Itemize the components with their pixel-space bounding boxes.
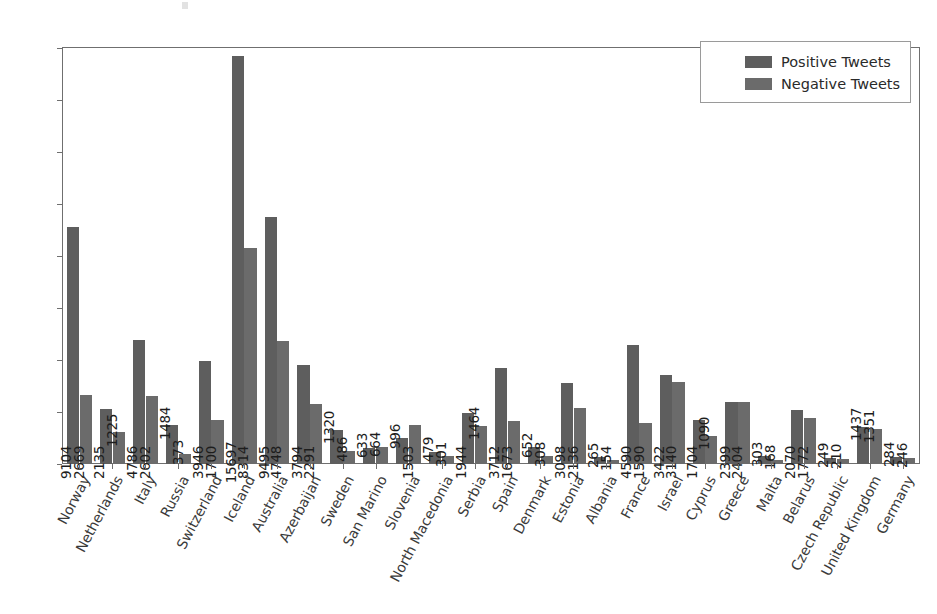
bar-negative: 8314	[244, 248, 256, 464]
bar-group: 91042669	[67, 48, 92, 464]
legend-swatch-positive	[745, 56, 772, 68]
bar-group: 39461700	[199, 48, 224, 464]
bar-group: 94954748	[265, 48, 290, 464]
x-axis-tick-mark	[738, 464, 739, 469]
scan-artifact	[182, 2, 188, 9]
bar-value-label: 1225	[105, 414, 119, 447]
bar-group: 21351225	[100, 48, 125, 464]
bar-group: 37121673	[495, 48, 520, 464]
bar-group: 45901590	[627, 48, 652, 464]
bar-value-label: 664	[369, 432, 383, 457]
legend: Positive Tweets Negative Tweets	[700, 41, 911, 103]
legend-swatch-negative	[745, 78, 772, 90]
x-axis-tick-mark	[870, 464, 871, 469]
x-axis-tick-mark	[244, 464, 245, 469]
x-axis-tick-mark	[79, 464, 80, 469]
x-axis-tick-mark	[639, 464, 640, 469]
bar-positive: 9104	[67, 227, 79, 464]
x-axis-tick-mark	[672, 464, 673, 469]
x-axis-tick-mark	[705, 464, 706, 469]
bar-group: 633664	[363, 48, 388, 464]
x-axis-tick-mark	[277, 464, 278, 469]
x-axis-tick-mark	[837, 464, 838, 469]
bar-group: 34223140	[660, 48, 685, 464]
x-axis-tick-mark	[442, 464, 443, 469]
bar-value-label: 1351	[863, 410, 877, 443]
x-axis: NorwayNetherlandsItalyRussiaSwitzerlandI…	[63, 464, 919, 614]
bar-positive: 9495	[265, 217, 277, 464]
bar-negative: 664	[376, 447, 388, 464]
x-axis-tick-mark	[475, 464, 476, 469]
bar-group: 20701772	[791, 48, 816, 464]
x-axis-tick-mark	[112, 464, 113, 469]
x-axis-tick-mark	[804, 464, 805, 469]
bar-group: 479301	[429, 48, 454, 464]
bar-group: 14371351	[857, 48, 882, 464]
bar-group: 9961503	[396, 48, 421, 464]
legend-label-negative: Negative Tweets	[781, 76, 900, 92]
x-axis-tick-mark	[409, 464, 410, 469]
bar-value-label: 1090	[698, 417, 712, 450]
bar-value-label: 486	[336, 437, 350, 462]
bar-group: 47862602	[133, 48, 158, 464]
bar-group: 23992404	[725, 48, 750, 464]
bar-group: 1320486	[330, 48, 355, 464]
legend-item-negative: Negative Tweets	[745, 73, 910, 95]
x-axis-tick-mark	[507, 464, 508, 469]
bar-value-label: 373	[171, 440, 185, 465]
bar-chart: 0200040006000800010000120001400016000 91…	[0, 0, 937, 614]
bar-value-label: 996	[389, 424, 403, 449]
bar-group: 303168	[758, 48, 783, 464]
x-axis-tick-mark	[540, 464, 541, 469]
bar-value-label: 301	[435, 442, 449, 467]
legend-item-positive: Positive Tweets	[745, 51, 910, 73]
x-axis-tick-mark	[211, 464, 212, 469]
x-axis-tick-mark	[903, 464, 904, 469]
bar-group: 652308	[528, 48, 553, 464]
bar-group: 265154	[594, 48, 619, 464]
x-axis-tick-mark	[771, 464, 772, 469]
bar-group: 17041090	[693, 48, 718, 464]
bar-group: 249210	[824, 48, 849, 464]
bar-value-label: 1464	[467, 407, 481, 440]
bar-value-label: 308	[533, 442, 547, 467]
legend-label-positive: Positive Tweets	[781, 54, 891, 70]
x-axis-tick-mark	[376, 464, 377, 469]
bars-layer: 9104266921351225478626021484373394617001…	[63, 48, 919, 464]
bar-group: 37942291	[297, 48, 322, 464]
bar-group: 30982136	[561, 48, 586, 464]
x-axis-tick-mark	[178, 464, 179, 469]
bar-group: 19441464	[462, 48, 487, 464]
bar-value-label: 1484	[158, 407, 172, 440]
bar-group: 1484373	[166, 48, 191, 464]
x-axis-tick-mark	[310, 464, 311, 469]
x-axis-tick-mark	[606, 464, 607, 469]
x-axis-tick-mark	[573, 464, 574, 469]
x-axis-tick-mark	[145, 464, 146, 469]
bar-group: 156978314	[232, 48, 257, 464]
bar-positive: 15697	[232, 56, 244, 464]
x-axis-tick-mark	[343, 464, 344, 469]
bar-group: 284246	[890, 48, 915, 464]
